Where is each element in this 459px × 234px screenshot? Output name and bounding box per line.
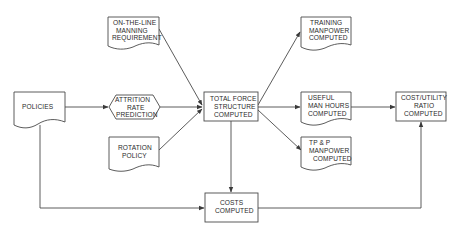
node-policies-label-0: POLICIES (22, 103, 54, 110)
node-tpp-label-1: MANPOWER (309, 147, 350, 154)
node-costs-computed[interactable]: COSTS COMPUTED (205, 193, 258, 222)
node-training-label-1: MANPOWER (309, 27, 350, 34)
node-total-force-label-0: TOTAL FORCE (210, 95, 257, 102)
node-policies[interactable]: POLICIES (14, 92, 65, 128)
node-on-the-line-label-2: REQUIREMENT (112, 34, 162, 42)
edge-costs-to-costutility (258, 122, 421, 208)
node-attrition-rate-prediction[interactable]: ATTRITION RATE PREDICTION (109, 95, 160, 119)
node-total-force-label-1: STRUCTURE (214, 103, 256, 110)
node-useful-label-1: MAN HOURS (308, 102, 350, 109)
edge-totalforce-to-training (258, 32, 300, 105)
node-useful-label-2: COMPUTED (308, 110, 347, 117)
node-cost-utility-label-0: COST/UTILITY (401, 94, 447, 101)
node-training-label-0: TRAINING (310, 19, 342, 26)
node-attrition-label-2: PREDICTION (116, 111, 158, 118)
node-cost-utility-label-2: COMPUTED (404, 110, 443, 117)
edge-totalforce-to-tpp (258, 110, 301, 150)
node-cost-utility-ratio-computed[interactable]: COST/UTILITY RATIO COMPUTED (396, 92, 447, 121)
node-rotation-label-0: ROTATION (118, 144, 152, 151)
edge-rotation-to-totalforce (159, 109, 202, 150)
node-rotation-policy[interactable]: ROTATION POLICY (109, 137, 159, 171)
node-on-the-line-label-1: MANNING (116, 27, 148, 34)
node-on-the-line-label-0: ON-THE-LINE (113, 19, 157, 26)
node-attrition-label-0: ATTRITION (115, 96, 150, 103)
node-attrition-label-1: RATE (127, 104, 145, 111)
edge-online-to-totalforce (159, 29, 202, 105)
node-training-manpower-computed[interactable]: TRAINING MANPOWER COMPUTED (301, 17, 351, 50)
flowchart-canvas: POLICIES ON-THE-LINE MANNING REQUIREMENT… (0, 0, 459, 234)
node-tpp-label-2: COMPUTED (313, 155, 352, 162)
node-rotation-label-1: POLICY (122, 152, 147, 159)
node-cost-utility-label-1: RATIO (414, 102, 434, 109)
node-tpp-label-0: TP & P (309, 139, 331, 146)
node-costs-label-0: COSTS (220, 199, 244, 206)
node-on-the-line-manning-requirement[interactable]: ON-THE-LINE MANNING REQUIREMENT (108, 17, 162, 49)
node-useful-label-0: USEFUL (308, 94, 335, 101)
node-total-force-structure-computed[interactable]: TOTAL FORCE STRUCTURE COMPUTED (204, 92, 258, 121)
node-tp-and-p-manpower-computed[interactable]: TP & P MANPOWER COMPUTED (301, 137, 352, 170)
node-training-label-2: COMPUTED (309, 34, 348, 41)
node-total-force-label-2: COMPUTED (214, 111, 253, 118)
node-useful-man-hours-computed[interactable]: USEFUL MAN HOURS COMPUTED (301, 92, 351, 125)
node-costs-label-1: COMPUTED (215, 207, 254, 214)
